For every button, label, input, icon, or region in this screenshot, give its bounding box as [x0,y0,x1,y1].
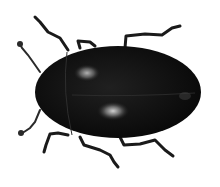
highlight-upper [73,64,101,82]
beetle-illustration [0,0,220,187]
highlight-lower [96,101,130,121]
highlight-rear [179,92,191,100]
beetle-body [35,46,201,138]
photo-stage [0,0,220,187]
antenna-tips [17,41,24,136]
